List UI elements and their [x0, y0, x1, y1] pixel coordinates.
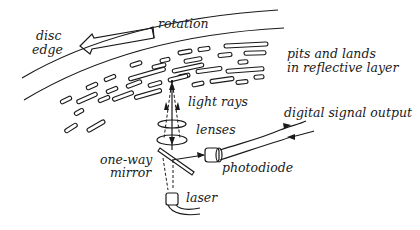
one-way-mirror-icon — [158, 148, 194, 190]
cd-reader-diagram: disc edge rotation pits and lands in ref… — [0, 0, 420, 230]
label-photodiode: photodiode — [222, 160, 293, 175]
label-lenses: lenses — [196, 122, 236, 137]
label-digital-output: digital signal output — [284, 105, 413, 120]
label-disc: disc — [36, 28, 61, 43]
label-mirror: mirror — [110, 165, 152, 180]
label-pits-2: in reflective layer — [287, 60, 399, 75]
label-laser: laser — [186, 190, 218, 205]
light-rays — [164, 80, 180, 150]
photodiode-icon — [205, 148, 222, 162]
label-light-rays: light rays — [188, 94, 248, 109]
label-edge: edge — [32, 42, 63, 57]
pits-and-lands — [60, 42, 268, 134]
label-pits-1: pits and lands — [287, 46, 376, 61]
label-rotation: rotation — [158, 16, 209, 31]
